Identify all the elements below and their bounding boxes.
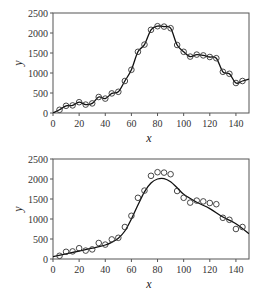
x-tick-label: 140 bbox=[228, 264, 243, 275]
y-tick-label: 0 bbox=[43, 254, 48, 265]
x-tick-label: 0 bbox=[51, 264, 56, 275]
data-point-marker bbox=[109, 237, 115, 243]
x-tick-label: 40 bbox=[100, 264, 110, 275]
x-tick-label: 20 bbox=[74, 118, 84, 129]
y-tick-label: 2500 bbox=[28, 154, 48, 165]
data-point-marker bbox=[187, 200, 193, 206]
x-axis-label: x bbox=[145, 277, 152, 291]
data-point-marker bbox=[148, 173, 154, 179]
data-point-marker bbox=[96, 240, 102, 246]
x-tick-label: 100 bbox=[176, 264, 191, 275]
data-point-marker bbox=[214, 201, 220, 207]
x-tick-label: 140 bbox=[228, 118, 243, 129]
x-tick-label: 40 bbox=[100, 118, 110, 129]
plot-frame bbox=[53, 159, 249, 259]
y-tick-label: 1000 bbox=[28, 214, 48, 225]
x-axis-label: x bbox=[145, 131, 152, 145]
data-point-marker bbox=[233, 226, 239, 232]
x-tick-label: 80 bbox=[153, 264, 163, 275]
y-tick-label: 0 bbox=[43, 108, 48, 119]
plot-frame bbox=[53, 13, 249, 113]
interpolating-curve bbox=[53, 26, 249, 113]
y-tick-label: 1500 bbox=[28, 48, 48, 59]
y-tick-label: 2000 bbox=[28, 28, 48, 39]
x-tick-label: 20 bbox=[74, 264, 84, 275]
y-tick-label: 1500 bbox=[28, 194, 48, 205]
x-tick-label: 100 bbox=[176, 118, 191, 129]
data-point-marker bbox=[76, 245, 82, 251]
data-point-marker bbox=[168, 171, 174, 177]
top-chart: 05001000150020002500020406080100120140xy bbox=[0, 0, 261, 148]
data-point-marker bbox=[181, 195, 187, 201]
x-tick-label: 60 bbox=[126, 264, 136, 275]
data-points bbox=[57, 23, 246, 112]
y-axis-label: y bbox=[11, 206, 25, 213]
x-tick-label: 60 bbox=[126, 118, 136, 129]
y-axis-label: y bbox=[11, 60, 25, 67]
data-point-marker bbox=[174, 188, 180, 194]
y-tick-label: 2000 bbox=[28, 174, 48, 185]
data-point-marker bbox=[161, 170, 167, 176]
data-point-marker bbox=[155, 169, 161, 175]
y-tick-label: 500 bbox=[33, 234, 48, 245]
data-point-marker bbox=[135, 195, 141, 201]
smooth-fit-curve bbox=[53, 178, 249, 256]
x-tick-label: 0 bbox=[51, 118, 56, 129]
data-point-marker bbox=[89, 247, 95, 253]
x-tick-label: 120 bbox=[202, 264, 217, 275]
y-tick-label: 2500 bbox=[28, 8, 48, 19]
x-tick-label: 120 bbox=[202, 118, 217, 129]
bottom-chart: 05001000150020002500020406080100120140xy bbox=[0, 148, 261, 297]
y-tick-label: 500 bbox=[33, 88, 48, 99]
y-tick-label: 1000 bbox=[28, 68, 48, 79]
data-point-marker bbox=[200, 199, 206, 205]
x-tick-label: 80 bbox=[153, 118, 163, 129]
data-point-marker bbox=[207, 200, 213, 206]
